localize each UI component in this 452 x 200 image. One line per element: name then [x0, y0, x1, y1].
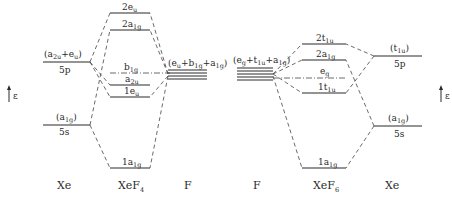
xe-5s-sym-right: (a1g) — [388, 113, 409, 125]
mo-2t1u-label: 2t1u — [316, 33, 334, 45]
xe-5s-sym-left: (a1g) — [56, 112, 77, 124]
mo-1a1g-label-left: 1a1g — [122, 157, 141, 169]
xe-5p-sym-right: (t1u) — [390, 43, 409, 55]
column-xef6: XeF6 — [313, 179, 339, 194]
xef4-diagram: (a2u+eu) 5p (a1g) 5s 2eu 2a1g b1g a2u 1e… — [43, 2, 227, 169]
xe-5p-label-right: 5p — [394, 59, 406, 69]
column-xe-right: Xe — [385, 179, 399, 192]
mo-2a1g-label-right: 2a1g — [316, 49, 335, 61]
column-xe-left: Xe — [57, 179, 71, 192]
energy-axis-left: ε — [7, 85, 18, 102]
mo-2eu-label: 2eu — [122, 2, 137, 14]
xe-5s-label-left: 5s — [59, 127, 70, 137]
mo-diagram: (a2u+eu) 5p (a1g) 5s 2eu 2a1g b1g a2u 1e… — [0, 0, 452, 200]
mo-1t1u-label: 1t1u — [318, 82, 336, 94]
mo-a2u-label: a2u — [125, 74, 139, 86]
f-ligand-stack-right — [237, 68, 273, 80]
mo-1a1g-label-right: 1a1g — [318, 157, 337, 169]
mo-2a1g-label-left: 2a1g — [122, 19, 141, 31]
xef6-diagram: (eg+t1u+a1g) 2t1u 2a1g eg 1t1u 1a1g (t1u… — [233, 33, 422, 169]
arrow-up-icon — [439, 85, 443, 90]
column-f-right: F — [253, 179, 261, 192]
mo-b1g-label: b1g — [124, 62, 138, 74]
energy-label-left: ε — [13, 91, 18, 101]
mo-1eu-label: 1eu — [124, 86, 139, 98]
xe-5p-label-left: 5p — [59, 65, 71, 75]
column-f-left: F — [184, 179, 192, 192]
xe-5p-sym-left: (a2u+eu) — [44, 49, 82, 61]
f-group-label-left: (eu+b1g+a1g) — [168, 58, 227, 70]
column-xef4: XeF4 — [118, 179, 144, 194]
arrow-up-icon — [7, 85, 11, 90]
mo-eg-label: eg — [320, 66, 330, 78]
f-ligand-stack-left — [168, 70, 207, 79]
energy-label-right: ε — [445, 91, 450, 101]
f-group-label-right: (eg+t1u+a1g) — [233, 55, 290, 67]
xe-5s-label-right: 5s — [394, 129, 405, 139]
energy-axis-right: ε — [439, 85, 450, 102]
